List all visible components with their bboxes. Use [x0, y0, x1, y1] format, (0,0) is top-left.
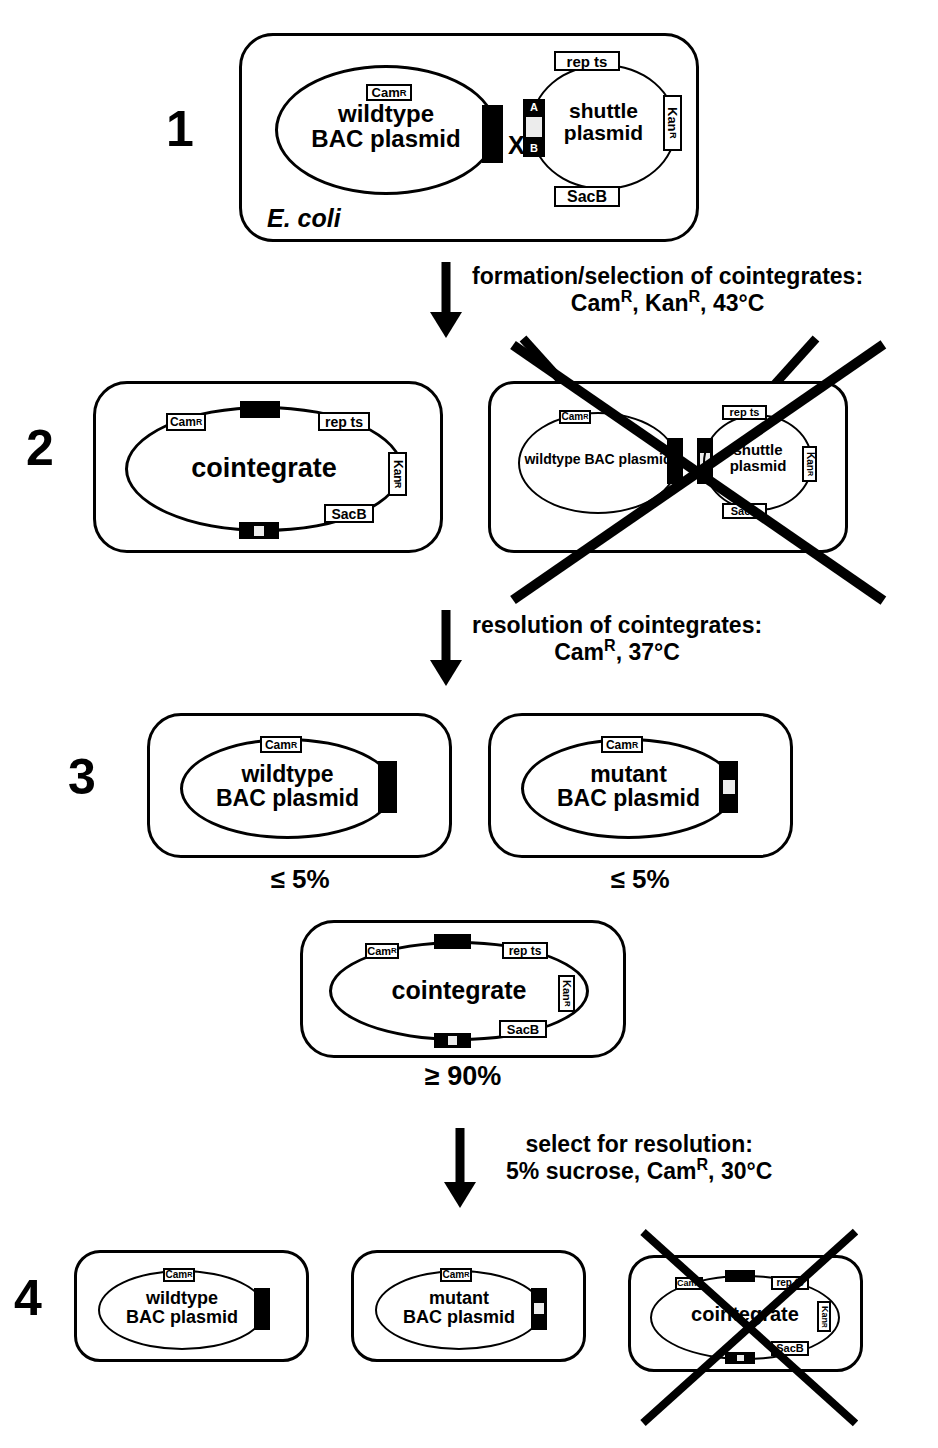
wildtype-bac-plasmid: wildtype BAC plasmid — [518, 412, 678, 514]
insert-window — [736, 1354, 745, 1362]
shuttle-ab-insert-bar: A B — [523, 99, 545, 157]
bac-insert-bar-top — [725, 1270, 755, 1282]
shuttle-plasmid-label: shuttle plasmid — [705, 442, 811, 473]
gene-kan-r: KanR — [817, 1301, 831, 1332]
organism-label: E. coli — [267, 204, 341, 233]
region-b-label: B — [523, 143, 545, 154]
shuttle-plasmid: shuttle plasmid — [530, 64, 677, 190]
gene-cam-r: CamR — [260, 736, 302, 753]
gene-sacb: SacB — [554, 186, 620, 207]
transition-3-4-arrow — [438, 1128, 482, 1208]
step2-rejected-cell: wildtype BAC plasmid CamR shuttle plasmi… — [488, 381, 848, 553]
step3-mutant-percentage: ≤ 5% — [540, 864, 740, 895]
mutant-bac-plasmid: mutant BAC plasmid — [375, 1270, 543, 1350]
bac-insert-bar-top — [240, 401, 280, 418]
gene-cam-r: CamR — [559, 410, 591, 424]
step-number-3: 3 — [68, 752, 95, 802]
transition-2-3-arrow — [424, 610, 468, 686]
step3-cointegrate-percentage: ≥ 90% — [363, 1061, 563, 1092]
step1-coli-cell: wildtype BAC plasmid CamR X shuttle plas… — [239, 33, 699, 242]
wildtype-bac-plasmid-label: wildtype BAC plasmid — [100, 1289, 264, 1326]
transition-2-3-label: resolution of cointegrates: CamR, 37°C — [472, 612, 762, 666]
transition-1-2-line1: formation/selection of cointegrates: — [472, 263, 863, 290]
mutant-insert-bar — [719, 761, 738, 813]
region-a-label: A — [523, 102, 545, 113]
gene-cam-r: CamR — [440, 1268, 472, 1282]
mutant-bac-plasmid: mutant BAC plasmid — [521, 738, 736, 839]
gene-kan-r: KanR — [663, 95, 682, 151]
insert-window — [253, 525, 265, 537]
step2-cointegrate-cell: cointegrate CamR rep ts KanR SacB — [93, 381, 443, 553]
bac-insert-bar-bottom — [725, 1352, 755, 1364]
wildtype-bac-plasmid-label: wildtype BAC plasmid — [183, 763, 392, 811]
transition-1-2-line2: CamR, KanR, 43°C — [472, 290, 863, 317]
gene-cam-label: Cam — [372, 86, 400, 99]
mutant-bac-plasmid-label: mutant BAC plasmid — [377, 1289, 541, 1326]
cointegrate-plasmid-label: cointegrate — [332, 977, 586, 1003]
gene-rep-ts: rep ts — [722, 405, 767, 420]
transition-2-3-line1: resolution of cointegrates: — [472, 612, 762, 639]
transition-3-4-line1: select for resolution: — [506, 1131, 772, 1158]
gene-sacb: SacB — [722, 503, 767, 519]
step3-mutant-cell: mutant BAC plasmid CamR — [488, 713, 793, 858]
bac-insert-bar-bottom — [434, 1033, 471, 1048]
bac-insert-bar — [667, 438, 683, 484]
cointegrate-plasmid-label: cointegrate — [652, 1304, 838, 1325]
figure-root: 1 wildtype BAC plasmid CamR X shuttle pl… — [0, 0, 938, 1448]
wildtype-bac-plasmid: wildtype BAC plasmid — [98, 1270, 266, 1350]
gene-cam-r: CamR — [365, 943, 399, 959]
shuttle-plasmid: shuttle plasmid — [703, 414, 813, 511]
mutant-bac-plasmid-label: mutant BAC plasmid — [524, 763, 733, 811]
bac-insert-bar — [254, 1288, 270, 1330]
step-number-4: 4 — [14, 1273, 41, 1323]
step3-wildtype-cell: wildtype BAC plasmid CamR — [147, 713, 452, 858]
gene-rep-ts: rep ts — [771, 1276, 809, 1290]
bac-insert-bar — [482, 105, 503, 163]
gene-kan-r: KanR — [388, 452, 407, 496]
insert-window — [525, 116, 543, 138]
step-number-1: 1 — [166, 104, 193, 154]
insert-window — [722, 779, 736, 795]
gene-sacb: SacB — [324, 504, 374, 523]
bac-insert-bar — [378, 761, 397, 813]
gene-rep-ts: rep ts — [318, 412, 370, 431]
mutant-insert-bar — [531, 1288, 547, 1330]
wildtype-bac-plasmid-label: wildtype BAC plasmid — [278, 102, 494, 152]
transition-2-3-line2: CamR, 37°C — [472, 639, 762, 666]
step3-cointegrate-cell: cointegrate CamR rep ts KanR SacB — [300, 920, 626, 1058]
bac-insert-bar-top — [434, 934, 471, 949]
step4-wildtype-cell: wildtype BAC plasmid CamR — [74, 1250, 309, 1362]
wildtype-bac-plasmid-label: wildtype BAC plasmid — [520, 452, 676, 467]
gene-sacb: SacB — [771, 1341, 809, 1356]
gene-sacb: SacB — [499, 1020, 547, 1038]
step4-rejected-cointegrate-cell: cointegrate CamR rep ts KanR SacB — [628, 1255, 863, 1372]
insert-window — [447, 1035, 458, 1046]
gene-kan-label: Kan — [666, 107, 679, 132]
transition-1-2-label: formation/selection of cointegrates: Cam… — [472, 263, 863, 317]
gene-kan-r: KanR — [802, 446, 817, 482]
gene-kan-r: KanR — [558, 975, 575, 1012]
gene-cam-r: CamR — [163, 1268, 195, 1282]
step3-wildtype-percentage: ≤ 5% — [200, 864, 400, 895]
gene-rep-ts: rep ts — [554, 51, 620, 71]
gene-cam-r: CamR — [366, 84, 412, 101]
transition-1-2-arrow — [424, 262, 468, 338]
cointegrate-plasmid-label: cointegrate — [128, 454, 400, 482]
gene-rep-ts: rep ts — [502, 942, 548, 959]
transition-3-4-line2: 5% sucrose, CamR, 30°C — [506, 1158, 772, 1185]
shuttle-plasmid-label: shuttle plasmid — [532, 100, 675, 144]
insert-window — [533, 1302, 545, 1315]
transition-3-4-label: select for resolution: 5% sucrose, CamR,… — [506, 1131, 772, 1185]
bac-insert-bar-bottom — [239, 522, 279, 539]
gene-cam-r: CamR — [675, 1277, 703, 1290]
gene-cam-r: CamR — [601, 736, 643, 753]
gene-cam-r: CamR — [166, 413, 206, 431]
step-number-2: 2 — [26, 423, 53, 473]
wildtype-bac-plasmid: wildtype BAC plasmid — [180, 738, 395, 839]
step4-mutant-cell: mutant BAC plasmid CamR — [351, 1250, 586, 1362]
